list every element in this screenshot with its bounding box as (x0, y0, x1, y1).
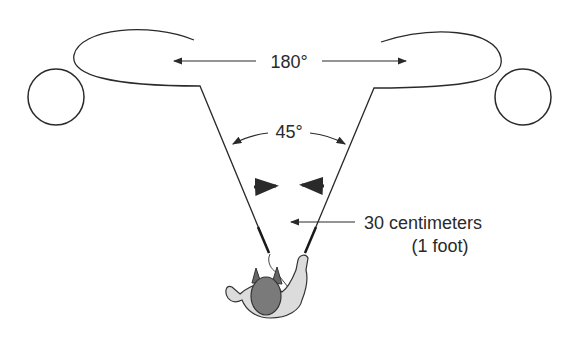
left-loop-path (74, 30, 269, 253)
inward-arrow-right (302, 185, 324, 186)
diagram-canvas: 180° 45° 30 centimeters (1 foot) (0, 0, 579, 339)
operator-figure (226, 254, 308, 318)
inward-arrow-left (254, 186, 276, 187)
left-target-circle (28, 69, 84, 125)
distance-label-line2: (1 foot) (411, 236, 468, 256)
spread-angle-label: 45° (275, 122, 302, 142)
spread-arrow-right (310, 133, 345, 144)
sweep-angle-label: 180° (270, 52, 307, 72)
spread-arrow-left (233, 133, 268, 144)
distance-label-line1: 30 centimeters (364, 213, 482, 233)
right-target-circle (495, 69, 551, 125)
